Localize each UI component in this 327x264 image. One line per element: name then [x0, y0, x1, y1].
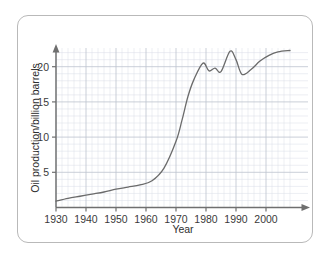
data-series-line [56, 51, 290, 202]
x-tick-label: 1960 [134, 213, 158, 225]
x-tick-label: 1950 [104, 213, 128, 225]
x-axis-ticks: 19301940195019601970198019902000 [44, 208, 278, 226]
x-tick-label: 2000 [254, 213, 278, 225]
grid-minor-lines [56, 48, 308, 208]
y-axis-title: Oil production/billion barrels [29, 63, 41, 193]
x-tick-label: 1930 [44, 213, 68, 225]
axes [53, 44, 310, 211]
x-tick-label: 1990 [224, 213, 248, 225]
y-tick-label: 5 [43, 166, 49, 178]
oil-production-line-chart: 5101520 19301940195019601970198019902000… [0, 0, 327, 264]
x-tick-label: 1940 [74, 213, 98, 225]
x-axis-title: Year [172, 223, 194, 235]
x-tick-label: 1980 [194, 213, 218, 225]
